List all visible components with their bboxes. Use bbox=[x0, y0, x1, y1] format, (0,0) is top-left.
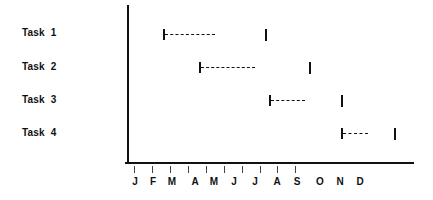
x-axis bbox=[125, 162, 414, 164]
month-label: O bbox=[313, 176, 327, 187]
task2-end-marker bbox=[309, 62, 311, 74]
month-label: J bbox=[227, 176, 241, 187]
task4-dashed-bar bbox=[343, 133, 368, 134]
x-tick bbox=[242, 166, 243, 173]
month-label: S bbox=[290, 176, 304, 187]
task3-dashed-bar bbox=[271, 100, 305, 101]
x-tick bbox=[188, 166, 189, 173]
task2-dashed-bar bbox=[201, 67, 255, 68]
month-label: A bbox=[188, 176, 202, 187]
y-axis bbox=[127, 5, 129, 164]
x-tick bbox=[260, 166, 261, 173]
x-tick bbox=[134, 166, 135, 173]
x-tick bbox=[152, 166, 153, 173]
x-tick bbox=[170, 166, 171, 173]
task4-end-marker bbox=[394, 128, 396, 140]
task-label-1: Task 1 bbox=[22, 27, 57, 38]
x-tick bbox=[295, 166, 296, 173]
task-label-4: Task 4 bbox=[22, 127, 57, 138]
x-tick bbox=[277, 166, 278, 173]
month-label: M bbox=[207, 176, 221, 187]
x-tick bbox=[206, 166, 207, 173]
month-label: M bbox=[165, 176, 179, 187]
month-label: A bbox=[270, 176, 284, 187]
month-label: F bbox=[146, 176, 160, 187]
month-label: D bbox=[353, 176, 367, 187]
task3-end-marker bbox=[341, 95, 343, 107]
month-label: N bbox=[333, 176, 347, 187]
task-label-2: Task 2 bbox=[22, 61, 57, 72]
month-label: J bbox=[128, 176, 142, 187]
task1-dashed-bar bbox=[165, 34, 215, 35]
task1-end-marker bbox=[265, 29, 267, 41]
month-label: J bbox=[248, 176, 262, 187]
task-label-3: Task 3 bbox=[22, 94, 57, 105]
x-tick bbox=[224, 166, 225, 173]
